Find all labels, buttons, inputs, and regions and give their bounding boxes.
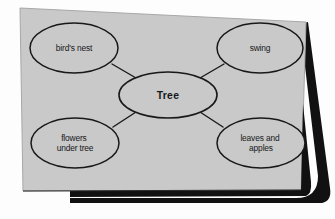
node-flowers-line-2: under tree xyxy=(57,143,94,153)
node-swing[interactable]: swing xyxy=(217,23,303,73)
screenshot-canvas: bird's nest swing Tree flowers under tre… xyxy=(0,0,335,219)
node-tree-center[interactable]: Tree xyxy=(119,72,217,118)
node-birds-nest[interactable]: bird's nest xyxy=(30,23,118,73)
node-leaves-line-2: apples xyxy=(249,143,273,153)
node-birds-nest-label: bird's nest xyxy=(56,43,93,53)
node-tree-label: Tree xyxy=(157,90,180,101)
node-flowers-line-1: flowers xyxy=(61,133,86,143)
node-flowers-under-tree[interactable]: flowers under tree xyxy=(31,118,119,168)
node-flowers-under-tree-label: flowers under tree xyxy=(57,133,94,153)
node-leaves-line-1: leaves and xyxy=(240,133,280,143)
node-swing-label: swing xyxy=(250,43,271,53)
node-leaves-and-apples[interactable]: leaves and apples xyxy=(217,118,305,168)
